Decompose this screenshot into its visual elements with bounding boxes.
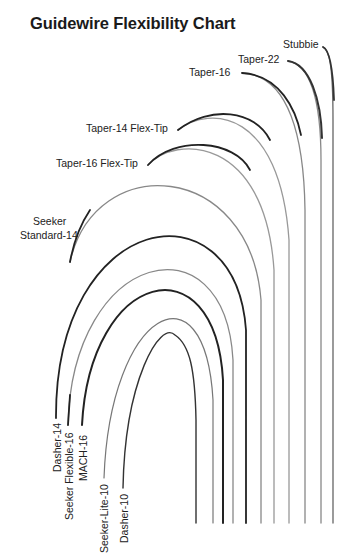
- label-seeker-flex16: Seeker Flexible-16: [63, 432, 75, 520]
- label-mach16: MACH-16: [77, 435, 89, 481]
- label-taper16: Taper-16: [189, 66, 230, 78]
- label-stubbie: Stubbie: [283, 38, 319, 50]
- label-taper22: Taper-22: [238, 53, 279, 65]
- label-taper14-flex: Taper-14 Flex-Tip: [86, 122, 168, 134]
- guidewire-curves: [0, 0, 354, 560]
- wire-dasher10: [123, 333, 196, 523]
- label-taper16-flex: Taper-16 Flex-Tip: [56, 157, 138, 169]
- label-seeker-standard14-line2: Standard-14: [20, 229, 78, 241]
- wire-stubbie: [323, 47, 333, 523]
- label-seeker-standard14-line1: Seeker: [33, 215, 66, 227]
- label-dasher14: Dasher-14: [51, 423, 63, 472]
- label-seeker-lite10: Seeker-Lite-10: [98, 484, 110, 553]
- label-dasher10: Dasher-10: [118, 494, 130, 543]
- wire-seeker-flex16: [68, 270, 233, 523]
- wire-taper16-flex: [148, 149, 274, 523]
